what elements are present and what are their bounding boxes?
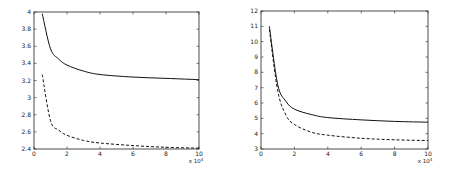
y-tick-label: 10 bbox=[250, 38, 258, 45]
y-tick-label: 3.6 bbox=[21, 42, 31, 49]
y-tick-label: 2.4 bbox=[21, 145, 31, 152]
y-tick-label: 4 bbox=[254, 130, 258, 137]
y-tick-label: 3.2 bbox=[21, 77, 31, 84]
y-tick-label: 2.8 bbox=[21, 111, 31, 118]
x-tick-label: 2 bbox=[65, 150, 69, 157]
y-tick-label: 3 bbox=[27, 94, 31, 101]
plot-frame bbox=[34, 12, 199, 149]
plot-frame bbox=[261, 11, 428, 149]
y-tick-label: 2.6 bbox=[21, 128, 31, 135]
x-tick-label: 2 bbox=[292, 150, 296, 157]
x-tick-label: 8 bbox=[164, 150, 168, 157]
x-tick-label: 4 bbox=[326, 150, 330, 157]
x-multiplier-label: x 104 bbox=[189, 157, 204, 165]
series-line-solid bbox=[42, 14, 199, 80]
y-tick-label: 8 bbox=[254, 68, 258, 75]
series-line-dashed bbox=[42, 75, 199, 149]
x-tick-label: 8 bbox=[393, 150, 397, 157]
series-line-solid bbox=[269, 26, 428, 122]
x-tick-label: 6 bbox=[131, 150, 135, 157]
y-tick-label: 4 bbox=[27, 8, 31, 15]
y-tick-label: 3.8 bbox=[21, 25, 31, 32]
figure-canvas: 02468102.42.62.833.23.43.63.84x 10402468… bbox=[0, 0, 449, 171]
x-tick-label: 6 bbox=[359, 150, 363, 157]
y-tick-label: 5 bbox=[254, 114, 258, 121]
x-tick-label: 0 bbox=[32, 150, 36, 157]
y-tick-label: 12 bbox=[250, 7, 258, 14]
y-tick-label: 6 bbox=[254, 99, 258, 106]
y-tick-label: 7 bbox=[254, 84, 258, 91]
series-line-dashed bbox=[269, 29, 428, 140]
y-tick-label: 11 bbox=[250, 22, 258, 29]
x-tick-label: 4 bbox=[98, 150, 102, 157]
y-tick-label: 9 bbox=[254, 53, 258, 60]
y-tick-label: 3 bbox=[254, 145, 258, 152]
y-tick-label: 3.4 bbox=[21, 59, 31, 66]
x-multiplier-label: x 104 bbox=[418, 157, 433, 165]
chart-1: 02468102.42.62.833.23.43.63.84x 104 bbox=[21, 8, 203, 164]
chart-2: 02468103456789101112x 104 bbox=[250, 7, 432, 164]
x-tick-label: 0 bbox=[259, 150, 263, 157]
